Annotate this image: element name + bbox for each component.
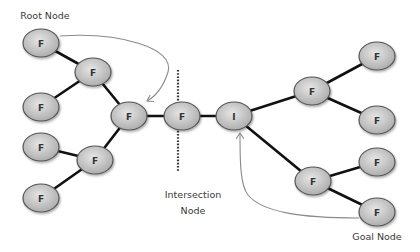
graph-node-n10: F <box>294 77 330 105</box>
node-letter: F <box>179 112 185 122</box>
node-letter: F <box>38 194 44 204</box>
graph-node-n3: F <box>23 93 59 121</box>
intersection-node-label-line1: Intersection <box>158 189 228 200</box>
node-letter: F <box>374 208 380 218</box>
node-letter: F <box>374 52 380 62</box>
graph-node-n2: F <box>75 58 111 86</box>
node-letter: F <box>38 39 44 49</box>
graph-node-n7: F <box>23 184 59 212</box>
node-letter: F <box>92 156 98 166</box>
node-letter: F <box>90 68 96 78</box>
graph-node-n11: F <box>359 42 395 70</box>
goal-node-label: Goal Node <box>346 231 408 242</box>
root-node-label: Root Node <box>16 10 74 21</box>
graph-node-n6: F <box>77 146 113 174</box>
graph-node-root: F <box>23 29 59 57</box>
graph-node-goal: F <box>359 198 395 226</box>
graph-node-intersection: I <box>216 102 252 130</box>
graph-node-n13: F <box>295 167 331 195</box>
graph-node-n8: F <box>164 102 200 130</box>
node-letter: F <box>309 87 315 97</box>
node-letter: F <box>38 103 44 113</box>
intersection-node-label-line2: Node <box>158 205 228 216</box>
graph-node-n4: F <box>111 102 147 130</box>
node-letter: F <box>374 158 380 168</box>
node-letter: F <box>38 143 44 153</box>
node-letter: F <box>310 177 316 187</box>
graph-node-n12: F <box>359 106 395 134</box>
node-letter: F <box>126 112 132 122</box>
graph-node-n14: F <box>359 148 395 176</box>
node-letter: F <box>374 116 380 126</box>
node-letter: I <box>232 112 235 122</box>
graph-node-n5: F <box>23 133 59 161</box>
